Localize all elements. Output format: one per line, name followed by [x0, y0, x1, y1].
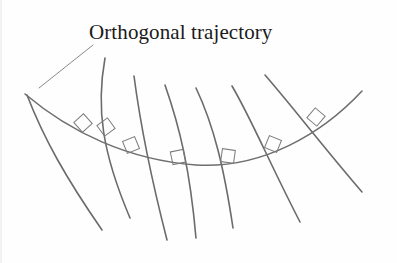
right-angle-marker-7: [97, 118, 115, 136]
orthogonal-trajectory-label: Orthogonal trajectory: [89, 20, 272, 44]
family-curve-2: [101, 58, 130, 218]
family-curve-5: [196, 88, 233, 228]
right-angle-square: [307, 108, 325, 126]
family-curve-7: [265, 75, 362, 192]
family-curves-group: [27, 58, 362, 240]
orthogonal-trajectory-figure: Orthogonal trajectory: [0, 0, 397, 263]
right-angle-marker-6: [307, 108, 325, 126]
label-leader-line: [39, 45, 93, 88]
right-angle-marker-4: [221, 149, 236, 164]
orthogonal-trajectory: [25, 91, 362, 165]
family-curve-6: [232, 86, 300, 222]
leader-line-group: [39, 45, 93, 88]
right-angle-markers-group: [74, 108, 325, 165]
right-angle-square: [97, 118, 115, 136]
right-angle-square: [221, 149, 236, 164]
family-curve-1: [27, 95, 102, 230]
trajectory-curve-group: [25, 91, 362, 165]
